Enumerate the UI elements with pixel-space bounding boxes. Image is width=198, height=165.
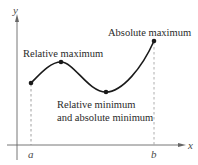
x-axis-label: x bbox=[187, 139, 193, 151]
tick-label-b: b bbox=[151, 148, 157, 160]
label-absolute-minimum: and absolute minimum bbox=[57, 112, 153, 123]
x-axis-arrow-icon bbox=[178, 143, 186, 147]
tick-label-a: a bbox=[28, 148, 34, 160]
point-a bbox=[29, 81, 34, 86]
label-relative-minimum: Relative minimum bbox=[57, 99, 135, 110]
label-relative-maximum: Relative maximum bbox=[23, 48, 103, 59]
extrema-diagram: y x a b Relative maximum Absolute maximu… bbox=[0, 0, 198, 165]
point-absolute-maximum bbox=[152, 39, 157, 44]
label-absolute-maximum: Absolute maximum bbox=[108, 27, 191, 38]
y-axis-label: y bbox=[12, 4, 18, 16]
point-relative-maximum bbox=[59, 60, 64, 65]
diagram-canvas: y x a b Relative maximum Absolute maximu… bbox=[0, 0, 198, 165]
point-relative-minimum bbox=[104, 90, 109, 95]
